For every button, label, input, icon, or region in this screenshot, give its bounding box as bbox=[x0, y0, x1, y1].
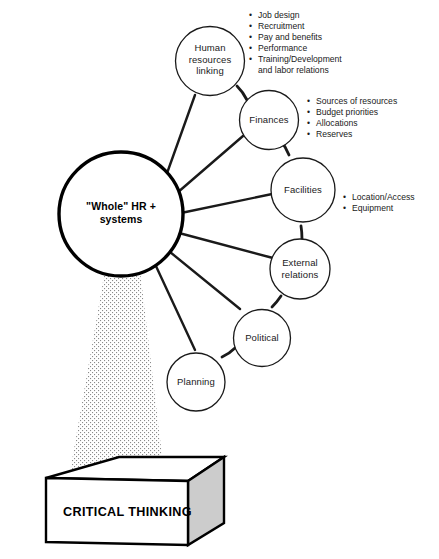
list-item: Recruitment bbox=[249, 21, 429, 32]
node-human-resources-linking[interactable] bbox=[176, 27, 245, 96]
list-item: Budget priorities bbox=[307, 107, 439, 118]
node-whole-hr-systems[interactable] bbox=[59, 152, 183, 276]
list-item: Allocations bbox=[307, 118, 439, 129]
hr-systems-diagram: "Whole" HR + systems Human resources lin… bbox=[0, 0, 439, 559]
critical-thinking-label: CRITICAL THINKING bbox=[63, 505, 192, 519]
annotation-list-human-resources-linking: Job design Recruitment Pay and benefits … bbox=[249, 10, 429, 77]
spoke-to-human-resources-linking bbox=[166, 95, 195, 176]
list-item: Performance bbox=[249, 43, 429, 54]
node-political[interactable] bbox=[234, 310, 291, 367]
annotation-list-finances: Sources of resources Budget priorities A… bbox=[307, 96, 439, 140]
spoke-to-facilities bbox=[181, 193, 277, 213]
list-item: Location/Access bbox=[343, 192, 439, 203]
link-external-to-political bbox=[272, 296, 281, 307]
list-item: Job design bbox=[249, 10, 429, 21]
list-item: Reserves bbox=[307, 129, 439, 140]
node-facilities[interactable] bbox=[271, 158, 335, 222]
list-item: Training/Development and labor relations bbox=[249, 54, 429, 76]
critical-thinking-block[interactable] bbox=[46, 457, 224, 545]
list-item: Sources of resources bbox=[307, 96, 439, 107]
diagram-canvas bbox=[0, 0, 439, 559]
link-political-to-planning bbox=[222, 348, 235, 357]
annotation-list-facilities: Location/Access Equipment bbox=[343, 192, 439, 214]
node-external-relations[interactable] bbox=[270, 239, 330, 299]
link-facilities-to-external bbox=[301, 226, 302, 239]
spoke-to-external-relations bbox=[179, 233, 273, 258]
list-item: Pay and benefits bbox=[249, 32, 429, 43]
satellite-nodes bbox=[167, 27, 335, 412]
list-item: Equipment bbox=[343, 203, 439, 214]
node-planning[interactable] bbox=[167, 353, 225, 411]
spoke-to-political bbox=[170, 252, 240, 309]
spoke-to-finances bbox=[177, 136, 243, 193]
link-hr-to-finances bbox=[237, 86, 247, 100]
spoke-to-planning bbox=[155, 264, 195, 350]
critical-thinking-spray bbox=[70, 270, 164, 472]
node-finances[interactable] bbox=[240, 91, 299, 150]
